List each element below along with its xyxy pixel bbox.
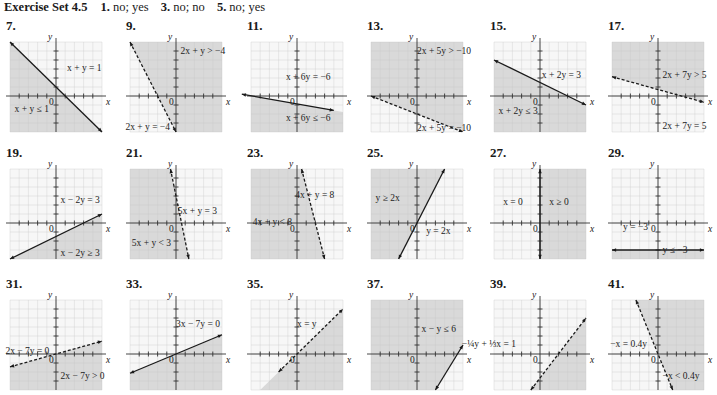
y-axis-label: y bbox=[167, 159, 173, 169]
inequality-label: 5x + y < 3 bbox=[132, 238, 171, 248]
answer-1: 1.no; yes bbox=[101, 0, 149, 14]
inequality-graph: xy0x − y ≤ 6 bbox=[365, 290, 471, 394]
x-axis-label: x bbox=[466, 355, 472, 365]
inequality-graph: xy0x + 2y = 3x + 2y ≤ 3 bbox=[488, 32, 594, 136]
inequality-graph: xy0x + 6y = −6x + 6y ≤ −6 bbox=[245, 32, 351, 136]
inequality-graph: xy0y = 2xy ≥ 2x bbox=[365, 159, 471, 263]
inequality-label: 4x + y < 8 bbox=[253, 217, 292, 227]
y-axis-label: y bbox=[167, 290, 173, 300]
inequality-label: 2x − 7y > 0 bbox=[61, 371, 105, 381]
boundary-equation: y = −3 bbox=[623, 222, 648, 232]
exercise-graph-17: 17.xy02x + 7y = 52x + 7y > 5 bbox=[606, 18, 717, 143]
x-axis-label: x bbox=[225, 97, 231, 107]
exercise-graph-39: 39.xy0−¼y + ⅓x = 1 bbox=[488, 276, 606, 395]
boundary-equation: −¼y + ⅓x = 1 bbox=[462, 339, 516, 349]
inequality-label: 2x + y > −4 bbox=[181, 46, 226, 56]
boundary-equation: x + y = 1 bbox=[67, 63, 102, 73]
exercise-graph-37: 37.xy0x − y ≤ 6 bbox=[365, 276, 483, 395]
y-axis-label: y bbox=[47, 290, 53, 300]
exercise-graph-9: 9.xy02x + y = −42x + y > −4 bbox=[124, 18, 242, 143]
x-axis-label: x bbox=[589, 97, 595, 107]
boundary-equation: 2x + 7y = 5 bbox=[663, 121, 707, 131]
inequality-graph: xy02x + 7y = 52x + 7y > 5 bbox=[606, 32, 712, 136]
origin-label: 0 bbox=[169, 224, 174, 234]
x-axis-label: x bbox=[105, 97, 111, 107]
answer-3: 3.no; no bbox=[161, 0, 205, 14]
x-axis-label: x bbox=[105, 355, 111, 365]
exercise-set-title: Exercise Set 4.5 bbox=[4, 0, 87, 14]
y-axis-label: y bbox=[408, 290, 414, 300]
inequality-graph: xy04x + y = 84x + y < 8 bbox=[245, 159, 351, 263]
exercise-graph-13: 13.xy02x + 5y = −102x + 5y > −10 bbox=[365, 18, 483, 143]
exercise-graph-31: 31.xy02x − 7y = 02x − 7y > 0 bbox=[4, 276, 122, 395]
origin-label: 0 bbox=[169, 97, 174, 107]
inequality-graph: xy02x − 7y = 02x − 7y > 0 bbox=[4, 290, 110, 394]
origin-label: 0 bbox=[410, 97, 415, 107]
inequality-label: x + y ≤ 1 bbox=[15, 104, 50, 114]
exercise-graph-41: 41.xy0−x = 0.4y−x < 0.4y bbox=[606, 276, 717, 395]
boundary-equation: x = y bbox=[297, 319, 317, 329]
inequality-graph: xy0x − 2y = 3x − 2y ≥ 3 bbox=[4, 159, 110, 263]
inequality-label: 2x + 5y > −10 bbox=[417, 46, 471, 56]
boundary-equation: x + 2y = 3 bbox=[542, 70, 581, 80]
x-axis-label: x bbox=[707, 355, 713, 365]
y-axis-label: y bbox=[649, 159, 655, 169]
inequality-label: x − 2y ≥ 3 bbox=[61, 248, 100, 258]
inequality-graph: xy0x = y bbox=[245, 290, 351, 394]
boundary-equation: x = 0 bbox=[503, 197, 523, 207]
boundary-equation: y = 2x bbox=[426, 226, 451, 236]
exercise-graph-7: 7.xy0x + y = 1x + y ≤ 1 bbox=[4, 18, 122, 143]
x-axis-label: x bbox=[707, 97, 713, 107]
inequality-graph: xy02x + 5y = −102x + 5y > −10 bbox=[365, 32, 471, 136]
origin-label: 0 bbox=[49, 355, 54, 365]
inequality-graph: xy02x + y = −42x + y > −4 bbox=[124, 32, 230, 136]
inequality-graph: xy0x + y = 1x + y ≤ 1 bbox=[4, 32, 110, 136]
origin-label: 0 bbox=[410, 355, 415, 365]
inequality-label: x + 6y ≤ −6 bbox=[286, 113, 331, 123]
origin-label: 0 bbox=[49, 224, 54, 234]
y-axis-label: y bbox=[288, 290, 294, 300]
inequality-graph: xy05x + y = 35x + y < 3 bbox=[124, 159, 230, 263]
x-axis-label: x bbox=[466, 97, 472, 107]
y-axis-label: y bbox=[47, 32, 53, 42]
boundary-equation: −x = 0.4y bbox=[610, 339, 647, 349]
inequality-label: 2x + 7y > 5 bbox=[663, 70, 707, 80]
exercise-graph-11: 11.xy0x + 6y = −6x + 6y ≤ −6 bbox=[245, 18, 363, 143]
boundary-equation: 2x − 7y = 0 bbox=[5, 346, 49, 356]
y-axis-label: y bbox=[408, 32, 414, 42]
y-axis-label: y bbox=[649, 290, 655, 300]
x-axis-label: x bbox=[589, 224, 595, 234]
y-axis-label: y bbox=[288, 159, 294, 169]
boundary-equation: 4x + y = 8 bbox=[295, 190, 334, 200]
x-axis-label: x bbox=[225, 224, 231, 234]
boundary-equation: x + 6y = −6 bbox=[286, 72, 331, 82]
exercise-graph-21: 21.xy05x + y = 35x + y < 3 bbox=[124, 145, 242, 270]
boundary-equation: 2x + 5y = −10 bbox=[417, 123, 471, 133]
y-axis-label: y bbox=[167, 32, 173, 42]
x-axis-label: x bbox=[707, 224, 713, 234]
y-axis-label: y bbox=[531, 32, 537, 42]
exercise-graph-35: 35.xy0x = y bbox=[245, 276, 363, 395]
inequality-graph: xy0x = 0x ≥ 0 bbox=[488, 159, 594, 263]
origin-label: 0 bbox=[651, 224, 656, 234]
origin-label: 0 bbox=[533, 355, 538, 365]
inequality-graph: xy0y = −3y ≤ −3 bbox=[606, 159, 712, 263]
y-axis-label: y bbox=[288, 32, 294, 42]
answer-5: 5.no; yes bbox=[217, 0, 265, 14]
boundary-equation: 5x + y = 3 bbox=[178, 206, 217, 216]
x-axis-label: x bbox=[466, 224, 472, 234]
x-axis-label: x bbox=[589, 355, 595, 365]
y-axis-label: y bbox=[47, 159, 53, 169]
exercise-graph-15: 15.xy0x + 2y = 3x + 2y ≤ 3 bbox=[488, 18, 606, 143]
x-axis-label: x bbox=[346, 224, 352, 234]
exercise-graph-23: 23.xy04x + y = 84x + y < 8 bbox=[245, 145, 363, 270]
x-axis-label: x bbox=[346, 97, 352, 107]
y-axis-label: y bbox=[531, 159, 537, 169]
inequality-graph: xy03x − 7y = 0 bbox=[124, 290, 230, 394]
exercise-graph-29: 29.xy0y = −3y ≤ −3 bbox=[606, 145, 717, 270]
inequality-label: y ≤ −3 bbox=[663, 245, 688, 255]
origin-label: 0 bbox=[651, 97, 656, 107]
origin-label: 0 bbox=[533, 224, 538, 234]
origin-label: 0 bbox=[290, 97, 295, 107]
exercise-graph-25: 25.xy0y = 2xy ≥ 2x bbox=[365, 145, 483, 270]
